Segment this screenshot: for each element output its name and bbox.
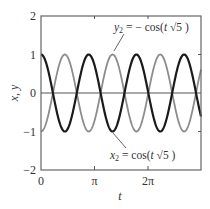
y-tick-label: 0 <box>30 86 36 100</box>
svg-text:y2 = − cos(t √5 ): y2 = − cos(t √5 ) <box>113 21 189 35</box>
annotation-y2: y2 = − cos(t √5 ) <box>113 21 189 51</box>
x-axis-label: t <box>118 189 122 203</box>
x-tick-label: 2π <box>142 174 154 188</box>
x-tick-label: π <box>91 174 97 188</box>
y-tick-label: 2 <box>30 9 36 23</box>
annotation-leader-line <box>113 133 126 148</box>
annotation-leader-line <box>114 34 124 51</box>
annotation-x2: x2 = cos(t √5 ) <box>109 133 176 163</box>
y-tick-label: −2 <box>23 163 36 177</box>
y-tick-label: 1 <box>30 48 36 62</box>
y-tick-label: −1 <box>23 125 36 139</box>
y-axis-label: x, y <box>7 84 21 102</box>
chart: 2 1 0 −1 −2 0 π 2π t x, y y2 = − cos(t √… <box>0 0 210 209</box>
x-tick-label: 0 <box>38 174 44 188</box>
svg-text:x2 = cos(t √5 ): x2 = cos(t √5 ) <box>109 149 176 163</box>
